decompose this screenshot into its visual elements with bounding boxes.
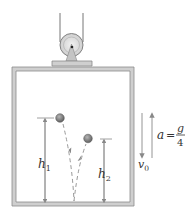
svg-text:4: 4	[177, 137, 183, 148]
svg-text:=: =	[166, 129, 175, 142]
elevator-diagram: h1 h2 v0 a = g 4	[0, 0, 195, 213]
svg-text:g: g	[177, 122, 184, 135]
v0-label: v0	[138, 158, 149, 173]
pulley-icon	[60, 34, 83, 62]
acceleration-label: a = g 4	[157, 122, 185, 148]
svg-text:a: a	[157, 128, 164, 142]
mounting-bracket	[52, 61, 92, 66]
ball-rebound	[84, 134, 93, 143]
ball-initial	[56, 114, 65, 123]
elevator-cage	[12, 67, 134, 206]
